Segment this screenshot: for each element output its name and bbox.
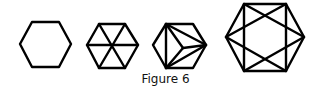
hexagon-cube-triangulated bbox=[153, 24, 206, 68]
hexagon-with-diagonals bbox=[87, 24, 138, 68]
plain-hexagon bbox=[20, 22, 71, 67]
figure-caption: Figure 6 bbox=[0, 72, 325, 86]
hexagon-star-rectangle bbox=[226, 4, 304, 71]
caption-text: Figure 6 bbox=[141, 72, 189, 86]
